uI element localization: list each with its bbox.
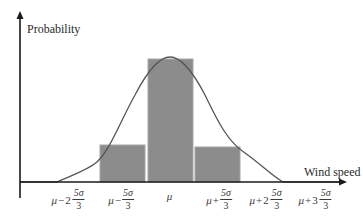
fraction: 5σ3 bbox=[320, 188, 332, 211]
bar-mu-plus-1 bbox=[195, 147, 240, 182]
fraction: 5σ3 bbox=[271, 188, 283, 211]
tick-label-mu: μ bbox=[167, 190, 174, 202]
tick-label-mu-plus-3: μ + 3 5σ3 bbox=[298, 188, 331, 211]
fraction: 5σ3 bbox=[122, 188, 134, 211]
bar-mu bbox=[148, 59, 193, 182]
tick-label-mu-plus-2: μ + 2 5σ3 bbox=[249, 188, 282, 211]
y-axis-arrow-icon bbox=[17, 11, 24, 19]
fraction: 5σ3 bbox=[220, 188, 232, 211]
tick-label-mu-plus-1: μ + 5σ3 bbox=[206, 188, 232, 211]
x-axis-label: Wind speed bbox=[304, 165, 361, 180]
tick-label-mu-minus-2: μ − 2 5σ3 bbox=[51, 188, 84, 211]
tick-label-mu-minus-1: μ − 5σ3 bbox=[108, 188, 134, 211]
fraction: 5σ3 bbox=[73, 188, 85, 211]
y-axis-label: Probability bbox=[27, 22, 80, 37]
